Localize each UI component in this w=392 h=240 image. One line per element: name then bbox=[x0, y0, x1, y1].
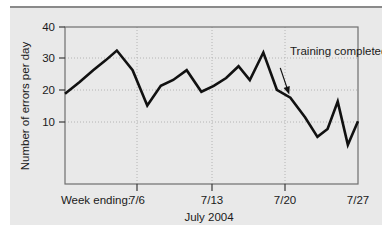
x-axis-ticks bbox=[137, 184, 285, 191]
errors-per-day-line bbox=[65, 51, 358, 145]
annotation-arrow-line bbox=[280, 68, 287, 89]
x-tick-label-7-27: 7/27 bbox=[347, 194, 369, 206]
annotation-label-training-completed: Training completed bbox=[290, 45, 382, 57]
y-tick-label-10: 10 bbox=[42, 116, 55, 128]
y-tick-label-40: 40 bbox=[42, 21, 55, 33]
x-axis-tick-labels: Week ending: 7/6 7/13 7/20 7/27 bbox=[61, 194, 369, 206]
y-tick-label-30: 30 bbox=[42, 52, 55, 64]
errors-per-day-line-chart: 40 30 20 10 Week ending: 7/6 7/13 7/20 7… bbox=[10, 8, 382, 227]
x-tick-label-7-6: 7/6 bbox=[129, 194, 145, 206]
y-axis-title: Number of errors per day bbox=[19, 42, 31, 171]
training-completed-annotation: Training completed bbox=[280, 45, 382, 95]
y-tick-label-20: 20 bbox=[42, 84, 55, 96]
x-tick-label-7-13: 7/13 bbox=[201, 194, 223, 206]
x-tick-label-7-20: 7/20 bbox=[274, 194, 296, 206]
x-axis-prefix-label: Week ending: bbox=[61, 194, 131, 206]
y-axis-ticks bbox=[59, 27, 65, 122]
figure-panel: 40 30 20 10 Week ending: 7/6 7/13 7/20 7… bbox=[10, 6, 382, 225]
x-axis-title: July 2004 bbox=[184, 211, 234, 223]
y-axis-tick-labels: 40 30 20 10 bbox=[42, 21, 55, 128]
